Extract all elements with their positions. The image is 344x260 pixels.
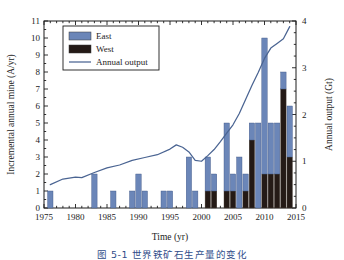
x-tick-label: 1985 (98, 212, 117, 222)
chart-legend: EastWestAnnual output (63, 26, 159, 70)
y-tick-label: 1 (36, 186, 41, 196)
figure-container: 197519801985199019952000200520102015 012… (0, 0, 344, 260)
bar-segment-west (281, 89, 286, 208)
bar-segment-east (186, 157, 191, 208)
bar-segment-east (243, 174, 248, 191)
x-tick-label: 1995 (161, 212, 180, 222)
y-tick-label: 9 (36, 50, 41, 60)
y-axis-ticks: 01234567891011 (31, 16, 48, 213)
bar-segment-west (274, 174, 279, 208)
y2-tick-label: 2 (302, 110, 307, 120)
legend-item-label: West (96, 44, 114, 54)
bar-segment-west (211, 191, 216, 208)
y2-axis-ticks: 01234 (292, 16, 307, 213)
y-tick-label: 2 (36, 169, 41, 179)
bar-segment-east (111, 191, 116, 208)
y2-axis-title: Annual output (Gt) (324, 78, 335, 151)
bar-segment-east (281, 72, 286, 89)
bar-segment-east (136, 174, 141, 208)
bar-segment-west (268, 174, 273, 208)
bar-segment-east (48, 191, 53, 208)
y2-tick-label: 4 (302, 16, 307, 26)
bar-segment-east (142, 191, 147, 208)
bar-segment-east (249, 123, 254, 140)
x-tick-label: 2015 (287, 212, 306, 222)
bar-segment-east (237, 157, 242, 208)
y-tick-label: 4 (36, 135, 41, 145)
figure-caption: 图 5-1 世界铁矿石生产量的变化 (0, 242, 344, 260)
bar-segment-east (211, 174, 216, 191)
legend-item-label: Annual output (96, 57, 148, 67)
x-tick-label: 1975 (35, 212, 54, 222)
y2-tick-label: 3 (302, 63, 307, 73)
y-axis-title: Incremental annual mine (A/yr) (6, 54, 17, 175)
bar-segment-east (268, 123, 273, 174)
y-tick-label: 10 (31, 33, 41, 43)
x-tick-label: 2005 (224, 212, 243, 222)
y-tick-label: 11 (31, 16, 40, 26)
y-tick-label: 5 (36, 118, 41, 128)
bar-segment-east (256, 123, 261, 208)
bar-segment-west (230, 191, 235, 208)
bar-segment-west (262, 174, 267, 208)
y2-tick-label: 1 (302, 156, 307, 166)
y2-tick-label: 0 (302, 203, 307, 213)
bar-segment-west (243, 191, 248, 208)
bar-segment-west (224, 191, 229, 208)
y-tick-label: 3 (36, 152, 41, 162)
x-tick-label: 2010 (256, 212, 275, 222)
bar-segment-east (230, 174, 235, 191)
x-tick-label: 1980 (67, 212, 86, 222)
y-tick-label: 0 (36, 203, 41, 213)
bar-segment-west (205, 191, 210, 208)
bar-segment-east (92, 174, 97, 208)
bar-segment-east (167, 191, 172, 208)
bar-segment-east (130, 191, 135, 208)
x-tick-label: 2000 (193, 212, 212, 222)
y-tick-label: 6 (36, 101, 41, 111)
bar-segment-west (287, 157, 292, 208)
y-tick-label: 8 (36, 67, 41, 77)
bar-segment-east (287, 106, 292, 157)
bar-segment-east (193, 191, 198, 208)
bar-segment-east (161, 191, 166, 208)
bar-segment-west (249, 140, 254, 208)
y-tick-label: 7 (36, 84, 41, 94)
bar-segment-east (274, 123, 279, 174)
chart-canvas: 197519801985199019952000200520102015 012… (0, 0, 344, 260)
bar-segment-east (205, 157, 210, 191)
legend-item-label: East (96, 31, 112, 41)
x-tick-label: 1990 (130, 212, 149, 222)
